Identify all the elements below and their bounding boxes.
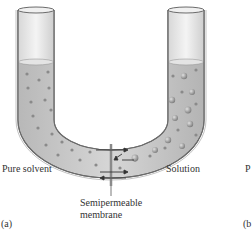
solution-label: Solution: [166, 163, 200, 174]
tube-inner: [54, 10, 168, 150]
panel-b-label: (b: [243, 218, 251, 229]
membrane-label-line2: membrane: [80, 209, 122, 220]
pure-solvent-label: Pure solvent: [2, 163, 52, 174]
membrane-label-line1: Semipermeable: [80, 197, 142, 208]
panel-a-label: (a): [1, 218, 12, 229]
right-cut-label: P: [245, 163, 251, 174]
